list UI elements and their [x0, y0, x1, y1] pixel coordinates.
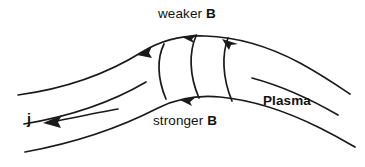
cross-section-arc-1: [159, 44, 166, 99]
label-weaker-b: weaker B: [158, 7, 216, 21]
flux-tube-diagram: weaker B stronger B Plasma j: [0, 0, 365, 167]
label-plasma: Plasma: [263, 94, 311, 108]
current-arrowhead: [43, 115, 62, 128]
label-weaker-text: weaker: [158, 6, 202, 21]
label-stronger-b: stronger B: [153, 114, 217, 128]
label-stronger-b-vector: B: [207, 113, 217, 128]
interior-field-line-upper: [24, 82, 146, 124]
diagram-canvas: [0, 0, 365, 167]
label-weaker-b-vector: B: [206, 6, 216, 21]
label-stronger-text: stronger: [153, 113, 203, 128]
upper-tube-boundary: [18, 36, 350, 95]
cross-section-arc-2: [191, 36, 199, 98]
field-arrowhead-left: [137, 46, 152, 58]
label-current-density: j: [27, 112, 31, 127]
